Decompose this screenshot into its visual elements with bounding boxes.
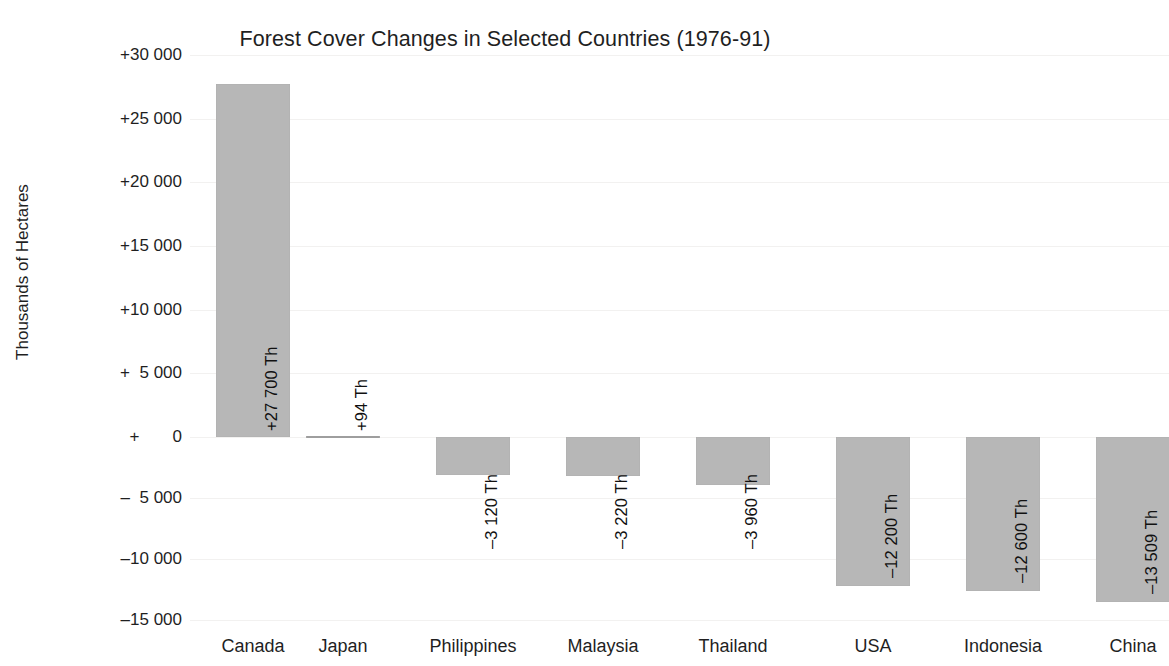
bar-group[interactable]: +94 Th	[306, 55, 380, 620]
y-axis-tick-label: –10 000	[121, 549, 182, 569]
x-axis-tick-labels: CanadaJapanPhilippinesMalaysiaThailandUS…	[190, 636, 1169, 666]
y-axis-tick-label: – 5 000	[121, 488, 182, 508]
x-axis-tick-label: Japan	[318, 636, 367, 657]
y-axis-tick-label: + 5 000	[120, 363, 182, 383]
plot-area: +27 700 Th+94 Th–3 120 Th–3 220 Th–3 960…	[190, 55, 1169, 620]
bar-group[interactable]: –3 220 Th	[566, 55, 640, 620]
y-axis-tick-label: –15 000	[121, 610, 182, 630]
y-axis-tick-label: +15 000	[120, 236, 182, 256]
x-axis-tick-label: Philippines	[429, 636, 516, 657]
y-axis-tick-labels: +30 000+25 000+20 000+15 000+10 000+ 5 0…	[78, 0, 182, 666]
y-axis-title: Thousands of Hectares	[13, 107, 33, 437]
x-axis-tick-label: Malaysia	[567, 636, 638, 657]
bar[interactable]	[566, 437, 640, 476]
y-axis-tick-label: +10 000	[120, 300, 182, 320]
bar-group[interactable]: –12 200 Th	[836, 55, 910, 620]
bar-value-label: –12 600 Th	[1012, 499, 1031, 583]
y-axis-tick-label: +25 000	[120, 109, 182, 129]
bar-value-label: –12 200 Th	[882, 494, 901, 578]
x-axis-tick-label: Indonesia	[964, 636, 1042, 657]
bar-group[interactable]: –12 600 Th	[966, 55, 1040, 620]
bar-value-label: –13 509 Th	[1142, 510, 1161, 594]
bar-group[interactable]: –13 509 Th	[1096, 55, 1169, 620]
bar-value-label: –3 960 Th	[742, 474, 761, 549]
x-axis-tick-label: Thailand	[698, 636, 767, 657]
y-axis-tick-label: + 0	[130, 427, 182, 447]
y-axis-tick-label: +20 000	[120, 172, 182, 192]
x-axis-tick-label: Canada	[221, 636, 284, 657]
bar-group[interactable]: +27 700 Th	[216, 55, 290, 620]
bar-value-label: +94 Th	[352, 379, 371, 431]
bar-value-label: –3 220 Th	[612, 474, 631, 549]
chart-page: Forest Cover Changes in Selected Countri…	[0, 0, 1169, 666]
bar-group[interactable]: –3 960 Th	[696, 55, 770, 620]
bar-group[interactable]: –3 120 Th	[436, 55, 510, 620]
y-axis-tick-label: +30 000	[120, 45, 182, 65]
bar[interactable]	[436, 437, 510, 475]
bar[interactable]	[306, 436, 380, 438]
x-axis-tick-label: China	[1109, 636, 1156, 657]
bar-value-label: +27 700 Th	[262, 346, 281, 431]
x-axis-tick-label: USA	[854, 636, 891, 657]
gridline	[190, 620, 1169, 621]
bar-value-label: –3 120 Th	[482, 474, 501, 549]
